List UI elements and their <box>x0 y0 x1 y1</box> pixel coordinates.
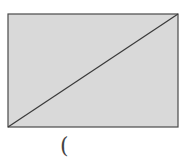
diagram-label: ( <box>60 134 69 158</box>
rectangle-diagram <box>0 0 187 161</box>
